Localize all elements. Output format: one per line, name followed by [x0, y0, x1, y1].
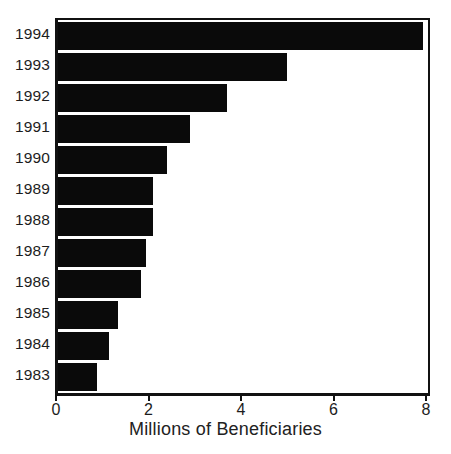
x-axis-title: Millions of Beneficiaries [0, 419, 451, 440]
y-axis-label-1987: 1987 [0, 242, 50, 260]
bar-row [58, 53, 428, 81]
y-axis-label-1988: 1988 [0, 211, 50, 229]
x-tick-2 [148, 394, 150, 401]
bar-1989 [58, 177, 153, 205]
bar-row [58, 239, 428, 267]
y-axis-label-1991: 1991 [0, 118, 50, 136]
x-tick-4 [240, 394, 242, 401]
bar-1987 [58, 239, 146, 267]
bar-chart-figure: 1994199319921991199019891988198719861985… [0, 0, 451, 454]
x-tick-0 [55, 394, 57, 401]
bars-layer [58, 20, 428, 393]
bar-row [58, 270, 428, 298]
y-axis-label-1984: 1984 [0, 335, 50, 353]
plot-area [55, 18, 430, 396]
bar-1991 [58, 115, 190, 143]
bar-1988 [58, 208, 153, 236]
bar-row [58, 301, 428, 329]
x-tick-label-8: 8 [406, 401, 446, 419]
y-axis-label-1985: 1985 [0, 304, 50, 322]
bar-1993 [58, 53, 287, 81]
bar-1992 [58, 84, 227, 112]
bar-row [58, 363, 428, 391]
bar-1990 [58, 146, 167, 174]
bar-row [58, 146, 428, 174]
bar-row [58, 208, 428, 236]
bar-row [58, 332, 428, 360]
x-tick-8 [425, 394, 427, 401]
bar-row [58, 22, 428, 50]
y-axis-label-1989: 1989 [0, 180, 50, 198]
y-axis-label-1992: 1992 [0, 87, 50, 105]
bar-row [58, 177, 428, 205]
bar-1986 [58, 270, 141, 298]
x-tick-label-2: 2 [129, 401, 169, 419]
bar-1984 [58, 332, 109, 360]
y-axis-label-1986: 1986 [0, 273, 50, 291]
y-axis-category-labels: 1994199319921991199019891988198719861985… [0, 18, 50, 391]
x-tick-6 [333, 394, 335, 401]
y-axis-label-1990: 1990 [0, 149, 50, 167]
bar-1994 [58, 22, 423, 50]
x-tick-label-6: 6 [314, 401, 354, 419]
bar-row [58, 115, 428, 143]
y-axis-label-1983: 1983 [0, 366, 50, 384]
y-axis-label-1994: 1994 [0, 25, 50, 43]
x-tick-label-0: 0 [36, 401, 76, 419]
bar-row [58, 84, 428, 112]
x-tick-label-4: 4 [221, 401, 261, 419]
bar-1985 [58, 301, 118, 329]
y-axis-label-1993: 1993 [0, 56, 50, 74]
bar-1983 [58, 363, 97, 391]
